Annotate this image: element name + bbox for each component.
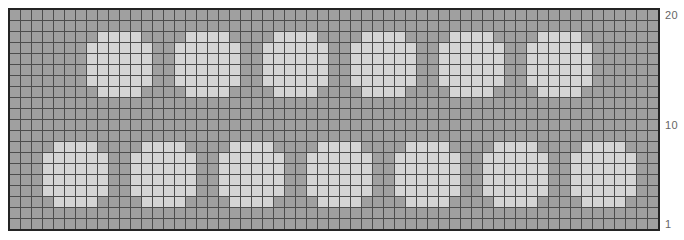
ground-stitch-cell — [263, 219, 273, 229]
ground-stitch-cell — [21, 131, 31, 141]
ground-stitch-cell — [483, 10, 493, 20]
ground-stitch-cell — [120, 109, 130, 119]
dot-stitch-cell — [505, 197, 515, 207]
ground-stitch-cell — [65, 32, 75, 42]
ground-stitch-cell — [120, 142, 130, 152]
ground-stitch-cell — [637, 164, 647, 174]
dot-stitch-cell — [560, 43, 570, 53]
ground-stitch-cell — [417, 98, 427, 108]
dot-stitch-cell — [428, 142, 438, 152]
ground-stitch-cell — [626, 10, 636, 20]
ground-stitch-cell — [593, 32, 603, 42]
ground-stitch-cell — [362, 219, 372, 229]
ground-stitch-cell — [285, 10, 295, 20]
ground-stitch-cell — [593, 120, 603, 130]
ground-stitch-cell — [450, 109, 460, 119]
dot-stitch-cell — [263, 142, 273, 152]
ground-stitch-cell — [197, 120, 207, 130]
dot-stitch-cell — [395, 43, 405, 53]
ground-stitch-cell — [483, 109, 493, 119]
dot-stitch-cell — [164, 153, 174, 163]
ground-stitch-cell — [296, 120, 306, 130]
ground-stitch-cell — [538, 197, 548, 207]
ground-stitch-cell — [98, 98, 108, 108]
dot-stitch-cell — [186, 186, 196, 196]
ground-stitch-cell — [582, 87, 592, 97]
dot-stitch-cell — [219, 32, 229, 42]
dot-stitch-cell — [329, 153, 339, 163]
dot-stitch-cell — [186, 164, 196, 174]
ground-stitch-cell — [208, 98, 218, 108]
ground-stitch-cell — [296, 186, 306, 196]
ground-stitch-cell — [549, 219, 559, 229]
dot-stitch-cell — [582, 153, 592, 163]
ground-stitch-cell — [505, 76, 515, 86]
ground-stitch-cell — [527, 98, 537, 108]
dot-stitch-cell — [560, 32, 570, 42]
dot-stitch-cell — [494, 65, 504, 75]
dot-stitch-cell — [87, 186, 97, 196]
dot-stitch-cell — [230, 153, 240, 163]
ground-stitch-cell — [384, 208, 394, 218]
dot-stitch-cell — [131, 65, 141, 75]
ground-stitch-cell — [307, 98, 317, 108]
dot-stitch-cell — [362, 65, 372, 75]
ground-stitch-cell — [131, 208, 141, 218]
dot-stitch-cell — [395, 76, 405, 86]
ground-stitch-cell — [637, 87, 647, 97]
ground-stitch-cell — [109, 109, 119, 119]
dot-stitch-cell — [483, 164, 493, 174]
dot-stitch-cell — [131, 76, 141, 86]
dot-stitch-cell — [142, 65, 152, 75]
ground-stitch-cell — [10, 142, 20, 152]
ground-stitch-cell — [318, 87, 328, 97]
ground-stitch-cell — [560, 186, 570, 196]
ground-stitch-cell — [32, 131, 42, 141]
ground-stitch-cell — [65, 65, 75, 75]
ground-stitch-cell — [472, 109, 482, 119]
dot-stitch-cell — [362, 54, 372, 64]
ground-stitch-cell — [219, 142, 229, 152]
ground-stitch-cell — [505, 120, 515, 130]
dot-stitch-cell — [472, 65, 482, 75]
ground-stitch-cell — [648, 197, 658, 207]
dot-stitch-cell — [208, 32, 218, 42]
ground-stitch-cell — [10, 76, 20, 86]
ground-stitch-cell — [285, 208, 295, 218]
ground-stitch-cell — [197, 208, 207, 218]
dot-stitch-cell — [615, 153, 625, 163]
dot-stitch-cell — [560, 87, 570, 97]
dot-stitch-cell — [384, 76, 394, 86]
ground-stitch-cell — [560, 98, 570, 108]
ground-stitch-cell — [527, 87, 537, 97]
ground-stitch-cell — [527, 10, 537, 20]
ground-stitch-cell — [43, 219, 53, 229]
ground-stitch-cell — [538, 120, 548, 130]
ground-stitch-cell — [153, 43, 163, 53]
ground-stitch-cell — [153, 76, 163, 86]
dot-stitch-cell — [318, 142, 328, 152]
ground-stitch-cell — [439, 21, 449, 31]
ground-stitch-cell — [406, 219, 416, 229]
ground-stitch-cell — [362, 10, 372, 20]
dot-stitch-cell — [329, 186, 339, 196]
ground-stitch-cell — [54, 98, 64, 108]
ground-stitch-cell — [417, 10, 427, 20]
ground-stitch-cell — [164, 208, 174, 218]
ground-stitch-cell — [406, 120, 416, 130]
ground-stitch-cell — [21, 65, 31, 75]
dot-stitch-cell — [428, 175, 438, 185]
ground-stitch-cell — [32, 186, 42, 196]
ground-stitch-cell — [483, 98, 493, 108]
dot-stitch-cell — [439, 142, 449, 152]
dot-stitch-cell — [263, 175, 273, 185]
dot-stitch-cell — [274, 175, 284, 185]
ground-stitch-cell — [296, 164, 306, 174]
ground-stitch-cell — [615, 219, 625, 229]
dot-stitch-cell — [494, 54, 504, 64]
dot-stitch-cell — [494, 175, 504, 185]
dot-stitch-cell — [560, 65, 570, 75]
ground-stitch-cell — [384, 21, 394, 31]
ground-stitch-cell — [637, 65, 647, 75]
ground-stitch-cell — [472, 131, 482, 141]
